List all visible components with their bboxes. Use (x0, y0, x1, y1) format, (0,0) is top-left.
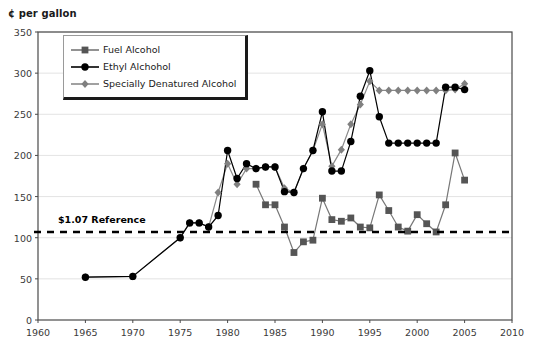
data-point-marker (357, 92, 364, 99)
x-tick-label: 1960 (18, 327, 58, 338)
data-point-marker (414, 139, 421, 146)
x-tick-label: 2010 (492, 327, 532, 338)
data-point-marker (291, 249, 298, 256)
data-point-marker (423, 220, 430, 227)
data-point-marker (385, 139, 392, 146)
y-tick-label: 50 (0, 273, 32, 284)
y-axis-title: ¢ per gallon (8, 8, 77, 19)
data-point-marker (328, 216, 335, 223)
chart-legend: Fuel AlcoholEthyl AlchoholSpecially Dena… (63, 35, 248, 100)
legend-item-label: Ethyl Alchohol (103, 61, 171, 72)
data-point-marker (271, 163, 278, 170)
data-point-marker (357, 224, 364, 231)
legend-item-circle[interactable]: Ethyl Alchohol (70, 58, 237, 75)
data-point-marker (414, 211, 421, 218)
data-point-marker (347, 138, 354, 145)
data-point-marker (432, 139, 439, 146)
data-point-marker (338, 218, 345, 225)
x-tick-label: 1995 (350, 327, 390, 338)
data-point-marker (395, 224, 402, 231)
legend-marker-square-icon (70, 44, 100, 56)
data-point-marker (310, 237, 317, 244)
data-point-marker (452, 150, 459, 157)
data-point-marker (300, 165, 307, 172)
data-point-marker (376, 192, 383, 199)
data-point-marker (205, 223, 212, 230)
data-point-marker (290, 189, 297, 196)
reference-line-label: $1.07 Reference (58, 214, 146, 225)
data-point-marker (461, 86, 468, 93)
data-point-marker (366, 224, 373, 231)
y-tick-label: 100 (0, 232, 32, 243)
y-tick-label: 250 (0, 109, 32, 120)
x-tick-label: 2005 (445, 327, 485, 338)
data-point-marker (376, 113, 383, 120)
data-point-marker (233, 175, 240, 182)
data-point-marker (328, 167, 335, 174)
x-tick-label: 1975 (160, 327, 200, 338)
data-point-marker (442, 83, 449, 90)
data-point-marker (385, 86, 392, 94)
y-tick-label: 200 (0, 150, 32, 161)
data-point-marker (347, 215, 354, 222)
data-point-marker (81, 63, 88, 70)
data-point-marker (433, 86, 440, 94)
data-point-marker (300, 238, 307, 245)
legend-item-label: Specially Denatured Alcohol (103, 78, 237, 89)
data-point-marker (338, 146, 345, 154)
legend-item-label: Fuel Alcohol (103, 44, 160, 55)
x-tick-label: 1985 (255, 327, 295, 338)
data-point-marker (243, 160, 250, 167)
series-line-diamond (85, 81, 464, 277)
data-point-marker (423, 139, 430, 146)
legend-item-diamond[interactable]: Specially Denatured Alcohol (70, 75, 237, 92)
data-point-marker (451, 83, 458, 90)
data-point-marker (253, 181, 260, 188)
data-point-marker (338, 167, 345, 174)
data-point-marker (195, 219, 202, 226)
data-point-marker (319, 195, 326, 202)
x-tick-label: 1970 (113, 327, 153, 338)
data-point-marker (309, 147, 316, 154)
data-point-marker (186, 219, 193, 226)
data-point-marker (423, 86, 430, 94)
x-tick-label: 1980 (208, 327, 248, 338)
data-point-marker (129, 273, 136, 280)
data-point-marker (281, 188, 288, 195)
data-point-marker (214, 212, 221, 219)
x-tick-label: 2000 (397, 327, 437, 338)
x-tick-label: 1990 (302, 327, 342, 338)
data-point-marker (281, 224, 288, 231)
data-point-marker (82, 46, 89, 53)
data-point-marker (262, 163, 269, 170)
legend-marker-diamond-icon (70, 78, 100, 90)
data-point-marker (224, 147, 231, 154)
data-point-marker (272, 201, 279, 208)
data-point-marker (177, 234, 184, 241)
data-point-marker (404, 139, 411, 146)
series-line-circle (85, 71, 464, 278)
y-tick-label: 300 (0, 68, 32, 79)
data-point-marker (82, 274, 89, 281)
y-tick-label: 0 (0, 315, 32, 326)
x-tick-label: 1965 (65, 327, 105, 338)
data-point-marker (366, 67, 373, 74)
data-point-marker (404, 228, 411, 235)
data-point-marker (442, 201, 449, 208)
y-tick-label: 350 (0, 27, 32, 38)
chart-container: ¢ per gallon 050100150200250300350 19601… (0, 0, 537, 356)
data-point-marker (395, 139, 402, 146)
data-point-marker (385, 207, 392, 214)
data-point-marker (319, 108, 326, 115)
data-point-marker (461, 177, 468, 184)
y-tick-label: 150 (0, 191, 32, 202)
legend-item-square[interactable]: Fuel Alcohol (70, 41, 237, 58)
legend-marker-circle-icon (70, 61, 100, 73)
data-point-marker (81, 80, 88, 88)
data-point-marker (262, 201, 269, 208)
data-point-marker (395, 86, 402, 94)
data-point-marker (414, 86, 421, 94)
data-point-marker (404, 86, 411, 94)
data-point-marker (252, 165, 259, 172)
